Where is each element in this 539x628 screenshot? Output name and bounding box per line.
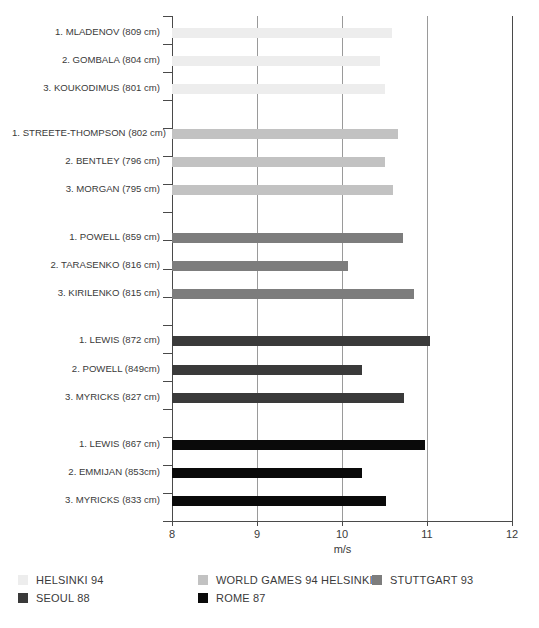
bar-row [172, 440, 512, 450]
bar [172, 336, 430, 346]
legend-swatch-icon [198, 575, 208, 585]
x-tick [512, 521, 513, 526]
bar-row [172, 129, 512, 139]
y-axis-label: 2. GOMBALA (804 cm) [12, 54, 172, 65]
bar [172, 84, 385, 94]
y-axis-label: 3. MYRICKS (827 cm) [12, 391, 172, 402]
bar-row [172, 289, 512, 299]
bar-row [172, 157, 512, 167]
x-tick [342, 521, 343, 526]
legend: HELSINKI 94WORLD GAMES 94 HELSINKISTUTTG… [0, 574, 539, 614]
bar [172, 393, 404, 403]
bar-row [172, 185, 512, 195]
legend-swatch-icon [372, 575, 382, 585]
legend-label: WORLD GAMES 94 HELSINKI [216, 574, 373, 586]
bar [172, 56, 380, 66]
bar-row [172, 468, 512, 478]
x-tick-label: 8 [152, 528, 192, 540]
bar-row [172, 496, 512, 506]
bar-row [172, 365, 512, 375]
bar [172, 440, 425, 450]
bar [172, 157, 385, 167]
bar [172, 289, 414, 299]
legend-swatch-icon [18, 575, 28, 585]
bar-row [172, 261, 512, 271]
y-axis-label: 2. POWELL (849cm) [12, 363, 172, 374]
y-axis-label: 1. LEWIS (872 cm) [12, 334, 172, 345]
x-tick-label: 9 [237, 528, 277, 540]
legend-label: HELSINKI 94 [36, 574, 104, 586]
bars-container [172, 16, 512, 521]
bar-row [172, 28, 512, 38]
y-axis-label: 2. BENTLEY (796 cm) [12, 155, 172, 166]
plot-right-edge [512, 16, 513, 522]
bar [172, 365, 362, 375]
bar-row [172, 336, 512, 346]
legend-item[interactable]: HELSINKI 94 [18, 574, 104, 586]
legend-label: ROME 87 [216, 592, 266, 604]
y-axis-label: 1. LEWIS (867 cm) [12, 438, 172, 449]
y-axis-label: 3. KOUKODIMUS (801 cm) [12, 82, 172, 93]
x-tick [172, 521, 173, 526]
bar-row [172, 56, 512, 66]
y-axis-label: 3. MORGAN (795 cm) [12, 183, 172, 194]
bar [172, 468, 362, 478]
x-tick-label: 11 [407, 528, 447, 540]
bar [172, 185, 393, 195]
x-tick [257, 521, 258, 526]
y-axis-label: 3. KIRILENKO (815 cm) [12, 287, 172, 298]
y-axis-label: 1. POWELL (859 cm) [12, 231, 172, 242]
legend-item[interactable]: WORLD GAMES 94 HELSINKI [198, 574, 373, 586]
x-tick-label: 10 [322, 528, 362, 540]
y-axis-label: 2. TARASENKO (816 cm) [12, 259, 172, 270]
y-axis-label: 2. EMMIJAN (853cm) [12, 466, 172, 477]
legend-swatch-icon [18, 593, 28, 603]
legend-swatch-icon [198, 593, 208, 603]
bar [172, 28, 392, 38]
bar [172, 129, 398, 139]
legend-label: STUTTGART 93 [390, 574, 473, 586]
bar [172, 496, 386, 506]
bar-row [172, 393, 512, 403]
legend-label: SEOUL 88 [36, 592, 90, 604]
legend-item[interactable]: ROME 87 [198, 592, 266, 604]
y-axis-labels: 1. MLADENOV (809 cm)2. GOMBALA (804 cm)3… [0, 0, 172, 521]
x-tick [427, 521, 428, 526]
y-axis-label: 3. MYRICKS (833 cm) [12, 494, 172, 505]
y-axis-label: 1. MLADENOV (809 cm) [12, 26, 172, 37]
legend-item[interactable]: SEOUL 88 [18, 592, 90, 604]
bar-chart: 1. MLADENOV (809 cm)2. GOMBALA (804 cm)3… [0, 0, 539, 628]
bar [172, 233, 403, 243]
bar-row [172, 233, 512, 243]
bar [172, 261, 348, 271]
legend-item[interactable]: STUTTGART 93 [372, 574, 473, 586]
y-axis-label: 1. STREETE-THOMPSON (802 cm) [12, 127, 172, 138]
x-axis-title: m/s [172, 543, 513, 555]
x-tick-label: 12 [492, 528, 532, 540]
y-tick [163, 521, 172, 522]
bar-row [172, 84, 512, 94]
